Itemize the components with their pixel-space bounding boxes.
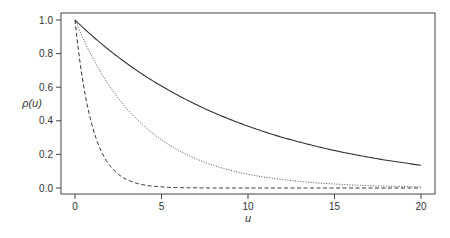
chart: 0.00.20.40.60.81.0 05101520 u ρ(u)	[0, 0, 450, 238]
plot-frame	[61, 13, 435, 194]
y-tick-label: 0.2	[39, 149, 53, 160]
x-tick-label: 0	[72, 201, 78, 212]
series-lines	[75, 20, 421, 188]
y-axis: 0.00.20.40.60.81.0	[39, 15, 61, 194]
series-dotted	[75, 20, 421, 187]
y-tick-label: 1.0	[39, 15, 53, 26]
y-axis-label: ρ(u)	[21, 97, 42, 109]
x-tick-label: 10	[242, 201, 254, 212]
series-solid	[75, 20, 421, 165]
x-tick-label: 15	[329, 201, 341, 212]
series-dashed	[75, 20, 421, 188]
y-tick-label: 0.4	[39, 115, 53, 126]
x-tick-label: 20	[415, 201, 427, 212]
y-tick-label: 0.6	[39, 82, 53, 93]
y-tick-label: 0.0	[39, 183, 53, 194]
x-axis: 05101520	[72, 194, 427, 212]
y-tick-label: 0.8	[39, 48, 53, 59]
x-tick-label: 5	[159, 201, 165, 212]
x-axis-label: u	[245, 212, 251, 224]
